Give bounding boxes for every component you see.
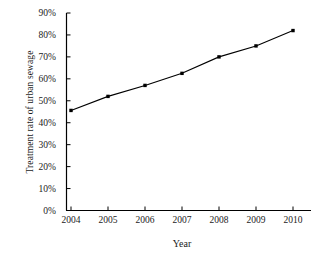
data-series-line <box>71 31 293 111</box>
data-point-marker <box>106 95 109 98</box>
x-axis-tick-labels: 2004200520062007200820092010 <box>0 214 323 228</box>
x-axis-title: Year <box>58 238 306 250</box>
x-axis-tick-label: 2005 <box>88 214 128 226</box>
x-axis-tick-label: 2009 <box>236 214 276 226</box>
data-point-marker <box>291 29 294 32</box>
x-axis-tick-label: 2004 <box>51 214 91 226</box>
data-point-marker <box>180 72 183 75</box>
data-point-marker <box>69 109 72 112</box>
line-chart: Treatment rate of urban sewage 90%80%70%… <box>0 0 323 262</box>
x-axis-tick-label: 2010 <box>273 214 313 226</box>
axis-lines <box>66 13 311 211</box>
data-point-markers <box>69 29 294 112</box>
x-axis-tick-label: 2008 <box>199 214 239 226</box>
data-point-marker <box>254 44 257 47</box>
x-axis-tick-label: 2007 <box>162 214 202 226</box>
data-point-marker <box>143 84 146 87</box>
x-axis-tick-label: 2006 <box>125 214 165 226</box>
data-point-marker <box>217 55 220 58</box>
